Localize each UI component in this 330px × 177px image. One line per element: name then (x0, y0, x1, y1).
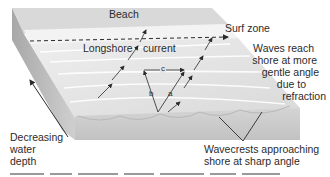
waves-reach-label-3: gentle angle (262, 66, 319, 78)
wave-refraction-diagram: Beach Surf zone Longshore current Waves … (0, 0, 330, 177)
waves-reach-label-5: refraction (282, 90, 326, 102)
waves-reach-label-1: Waves reach (253, 42, 314, 54)
vector-c-label: c (160, 64, 166, 73)
longshore-label: Longshore (83, 42, 133, 54)
cut-off-caption (10, 173, 310, 177)
current-label: current (143, 42, 176, 54)
depth-label: depth (10, 155, 36, 167)
water-label: water (10, 143, 36, 155)
surf-zone-label: Surf zone (225, 22, 270, 34)
vector-a-label: a (168, 89, 172, 98)
vector-b-label: b (149, 89, 153, 98)
waves-reach-label-4: due to (277, 78, 306, 90)
waves-reach-label-2: shore at more (252, 54, 317, 66)
decreasing-label: Decreasing (10, 131, 63, 143)
beach-label: Beach (109, 8, 139, 20)
wavecrests-label-2: shore at sharp angle (204, 155, 300, 167)
wavecrests-label-1: Wavecrests approaching (204, 143, 319, 155)
